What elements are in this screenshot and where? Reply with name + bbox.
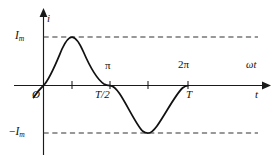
negative-peak-subscript: m: [19, 130, 24, 139]
sine-waveform-figure: i Im −Im O π 2π T/2 T ωt t: [0, 0, 278, 166]
tick-label-t-period: T: [186, 89, 192, 100]
time-axis-arrow-icon: [262, 82, 271, 90]
tick-label-pi: π: [105, 60, 111, 71]
tick-label-two-pi: 2π: [178, 59, 189, 70]
time-axis-label-t: t: [255, 89, 258, 100]
positive-peak-subscript: m: [19, 34, 24, 43]
time-axis-label-omega-t: ωt: [246, 60, 256, 71]
current-axis-label: i: [47, 13, 50, 24]
positive-peak-label: Im: [15, 30, 24, 42]
negative-peak-label: −Im: [9, 126, 25, 138]
waveform-canvas: [0, 0, 278, 166]
tick-label-t-half: T/2: [95, 89, 110, 100]
origin-label: O: [32, 89, 40, 100]
